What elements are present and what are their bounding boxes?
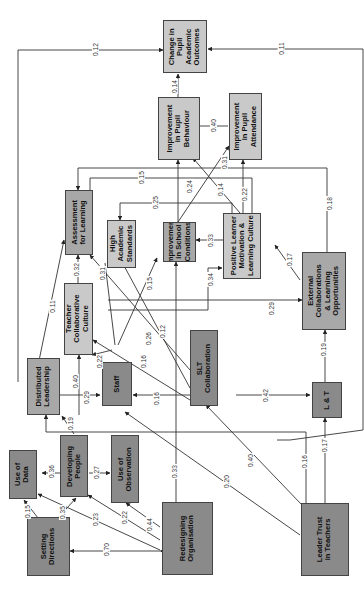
node-improvement-school-conditions: Improvement in School Conditions <box>163 222 196 262</box>
edge-label: 0.15 <box>146 276 153 291</box>
edge-label: 0.32 <box>73 262 80 277</box>
node-l-and-t: L & T <box>312 382 342 418</box>
edge-label: 0.22 <box>121 510 128 525</box>
edge-label: 0.16 <box>153 391 160 406</box>
path-diagram: Change in Pupil Academic Outcomes Improv… <box>0 0 364 596</box>
edge-label: 0.42 <box>262 388 269 403</box>
node-slt-collaboration: SLT Collaboration <box>190 330 218 406</box>
edge-label: 0.11 <box>278 41 285 55</box>
edge-label: 0.12 <box>92 42 99 57</box>
edge-label: 0.26 <box>145 331 152 346</box>
edge-label: 0.17 <box>321 438 328 453</box>
node-distributed-leadership: Distributed Leadership <box>27 358 60 415</box>
edge-label: 0.33 <box>171 464 178 479</box>
edge-label: 0.11 <box>49 299 56 313</box>
edge-label: 0.17 <box>286 252 293 267</box>
node-use-of-data: Use of Data <box>9 450 37 499</box>
edge-label: 0.19 <box>320 342 327 357</box>
edge-label: 0.27 <box>93 465 100 480</box>
edge-label: 0.18 <box>326 196 333 211</box>
node-redesigning-organisation: Redesigning Organisation <box>162 502 213 575</box>
edge-label: 0.14 <box>171 79 178 94</box>
edge-label: 0.40 <box>247 453 254 468</box>
node-setting-directions: Setting Directions <box>27 517 70 576</box>
edge-label: 0.20 <box>223 474 230 489</box>
node-teacher-collaborative-culture: Teacher Collaborative Culture <box>64 283 93 355</box>
edge-label: 0.33 <box>207 233 214 248</box>
edge-label: 0.15 <box>24 504 31 519</box>
node-assessment-for-learning: Assessment for Learning <box>65 190 93 255</box>
node-improvement-pupil-attendance: Improvement in Pupil Attendance <box>229 93 262 160</box>
edge-label: 0.22 <box>96 354 103 369</box>
edge-label: 0.35 <box>59 505 66 520</box>
node-external-collaborations: External Collaborations & Learning Oppor… <box>302 252 346 330</box>
edge-label: 0.31 <box>99 266 106 281</box>
edge-label: 0.29 <box>268 301 275 316</box>
edge-label: 0.14 <box>217 182 224 197</box>
node-staff: Staff <box>102 362 132 406</box>
edge-label: 0.12 <box>159 324 166 339</box>
edge-label: 0.22 <box>241 187 248 202</box>
edge-label: 0.29 <box>83 390 90 405</box>
edge-label: 0.34 <box>207 272 214 287</box>
edge-label: 0.31 <box>221 155 228 170</box>
node-change-pupil-outcomes: Change in Pupil Academic Outcomes <box>163 20 207 73</box>
edge-label: 0.40 <box>72 374 79 389</box>
node-use-of-observation: Use of Observation <box>111 435 139 503</box>
node-improvement-pupil-behaviour: Improvement in Pupil Behaviour <box>158 97 200 160</box>
node-positive-learner-motivation: Positive Learner Motivation & Learning C… <box>223 213 261 279</box>
edge-label: 0.25 <box>152 195 159 210</box>
edge-label: 0.15 <box>138 170 145 185</box>
edge-label: 0.19 <box>67 416 74 431</box>
edge-label: 0.44 <box>146 517 153 532</box>
edge-label: 0.16 <box>301 454 308 469</box>
node-leader-trust-in-teachers: Leader Trust in Teachers <box>301 503 349 576</box>
node-high-academic-standards: High Academic Standards <box>107 220 136 268</box>
node-developing-people: Developing People <box>60 435 88 497</box>
edge-label: 0.40 <box>210 118 217 133</box>
edge-label: 0.36 <box>48 464 55 479</box>
edge-label: 0.23 <box>92 512 99 527</box>
edge-label: 0.16 <box>140 354 147 369</box>
edge-label: 0.70 <box>103 542 110 557</box>
edge-label: 0.24 <box>186 179 193 194</box>
